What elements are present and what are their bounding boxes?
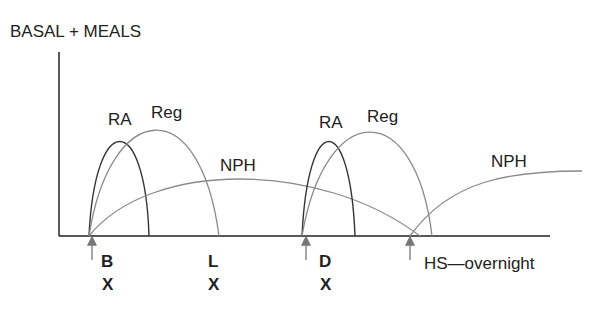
nph-curve-2 [410,171,582,236]
nph-label-2: NPH [491,152,527,172]
ra-label-1: RA [108,110,132,130]
hs-overnight-label: HS—overnight [424,254,535,274]
reg-label-1: Reg [151,103,182,123]
diagram-title: BASAL + MEALS [10,22,141,42]
ra-curve-2 [302,142,355,237]
ra-curve-1 [89,142,149,237]
reg-label-2: Reg [367,107,398,127]
ra-label-2: RA [319,113,343,133]
meal-breakfast: B [101,252,113,272]
nph-label-1: NPH [220,156,256,176]
reg-curve-1 [89,130,219,236]
meal-lunch: L [208,252,218,272]
arrow-hs-icon [406,237,414,245]
meal-dinner: D [319,252,331,272]
meal-dinner-mark: X [320,275,331,295]
meal-breakfast-mark: X [102,275,113,295]
arrow-b-icon [88,237,96,245]
nph-curve-1 [89,179,420,236]
reg-curve-2 [302,132,432,236]
meal-lunch-mark: X [208,275,219,295]
arrow-d-icon [302,237,310,245]
